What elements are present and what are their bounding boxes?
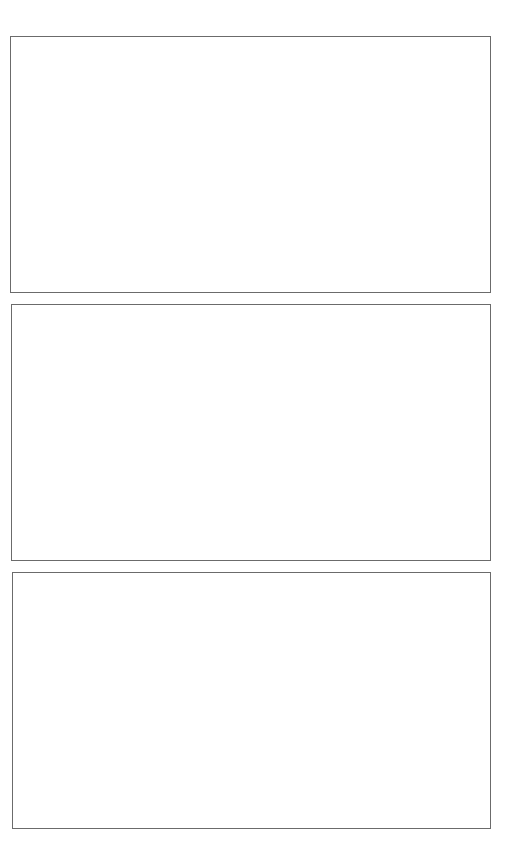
empty-panel-3: [12, 572, 491, 829]
empty-panel-1: [10, 36, 491, 293]
empty-panel-2: [11, 304, 491, 561]
page: [0, 0, 513, 851]
